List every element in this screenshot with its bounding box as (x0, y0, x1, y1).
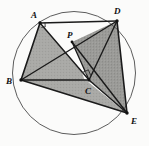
vertex-dot-B (19, 78, 22, 81)
vertex-dot-P (71, 41, 74, 44)
geometry-diagram: A D B C E P (0, 0, 149, 146)
vertex-dot-D (115, 19, 118, 22)
vertex-label-E: E (130, 116, 137, 126)
vertex-dot-E (125, 111, 128, 114)
vertex-label-P: P (67, 30, 73, 40)
geometry-figure-container: A D B C E P (0, 0, 149, 146)
vertex-label-D: D (113, 6, 121, 16)
vertex-dot-A (38, 21, 41, 24)
vertex-dot-C (88, 79, 91, 82)
vertex-label-A: A (30, 10, 37, 20)
vertex-label-B: B (5, 76, 12, 86)
vertex-label-C: C (85, 86, 92, 96)
